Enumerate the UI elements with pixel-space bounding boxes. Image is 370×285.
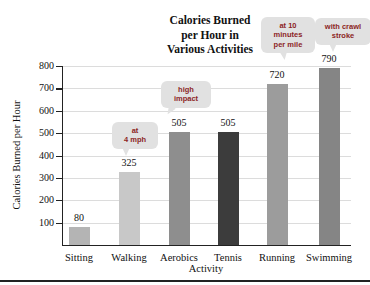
y-tick-label-500: 500 [23, 127, 54, 138]
bar-swimming [319, 68, 340, 245]
annotation-tail [329, 43, 337, 52]
annotation-text-line: with crawl [317, 22, 369, 31]
x-axis-title: Activity [62, 263, 350, 274]
gridline-800 [63, 66, 351, 67]
bar-aerobics [169, 132, 190, 245]
bar-value-walking: 325 [107, 157, 151, 168]
y-tick-800 [56, 66, 62, 67]
annotation-text-line: impact [163, 94, 209, 103]
gridline-500 [63, 133, 351, 134]
annotation-text-line: stroke [317, 31, 369, 40]
annotation-text-line: at 10 [263, 21, 313, 30]
gridline-200 [63, 200, 351, 201]
y-tick-700 [56, 88, 62, 89]
bar-walking [119, 172, 140, 245]
y-tick-label-800: 800 [23, 60, 54, 71]
annotation-tail [279, 51, 288, 61]
annotation-text-line: at [114, 126, 156, 135]
annotation-text-line: minutes [263, 30, 313, 39]
annotation-text-line: high [163, 85, 209, 94]
y-tick-400 [56, 156, 62, 157]
bar-value-swimming: 790 [307, 53, 351, 64]
annotation-bubble-running: at 10minutesper mile [261, 17, 315, 53]
y-tick-500 [56, 133, 62, 134]
bar-value-sitting: 80 [57, 212, 101, 223]
bar-sitting [69, 227, 90, 245]
y-axis-title: Calories Burned per Hour [11, 101, 22, 210]
annotation-bubble-swimming: with crawlstroke [315, 18, 370, 45]
y-tick-label-100: 100 [23, 217, 54, 228]
gridline-300 [63, 178, 351, 179]
bar-value-aerobics: 505 [157, 117, 201, 128]
bar-tennis [218, 132, 239, 245]
annotation-bubble-aerobics: highimpact [161, 81, 211, 108]
annotation-text-line: 4 mph [114, 135, 156, 144]
y-tick-label-300: 300 [23, 172, 54, 183]
annotation-text-line: per mile [263, 40, 313, 49]
gridline-600 [63, 111, 351, 112]
bar-value-tennis: 505 [206, 117, 250, 128]
annotation-tail [122, 147, 130, 156]
y-tick-label-600: 600 [23, 105, 54, 116]
calories-bar-chart-figure: Calories Burned per Hour in Various Acti… [0, 0, 370, 285]
figure-bottom-rule [0, 280, 370, 282]
y-tick-label-400: 400 [23, 150, 54, 161]
y-tick-600 [56, 111, 62, 112]
y-tick-300 [56, 178, 62, 179]
bar-running [267, 84, 288, 245]
category-label-swimming: Swimming [297, 252, 361, 263]
annotation-bubble-walking: at4 mph [112, 122, 158, 149]
y-tick-200 [56, 200, 62, 201]
y-tick-label-700: 700 [23, 82, 54, 93]
gridline-100 [63, 223, 351, 224]
y-tick-label-200: 200 [23, 194, 54, 205]
bar-value-running: 720 [255, 69, 299, 80]
